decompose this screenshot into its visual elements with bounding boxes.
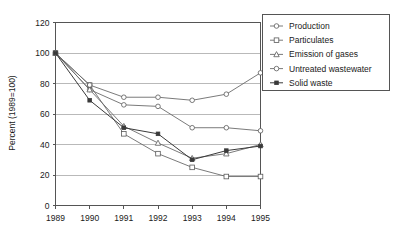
series-particulates [53,51,263,179]
legend-label: Solid waste [289,78,333,88]
data-point [155,140,160,145]
data-point [258,174,263,179]
data-point [156,104,161,109]
data-point [87,83,92,88]
line-chart: Percent (1989=100) 020406080100120 19891… [0,0,395,236]
chart-container: Percent (1989=100) 020406080100120 19891… [0,0,395,236]
legend-marker-icon [274,24,279,29]
legend-marker-icon [275,81,279,85]
data-point [190,125,195,130]
data-point [156,151,161,156]
y-tick-label: 40 [40,140,50,150]
data-point [156,95,161,100]
data-point [122,103,127,108]
x-tick-label: 1993 [183,213,202,223]
series-production [53,51,263,133]
series-line [56,53,261,100]
data-point [224,174,229,179]
x-tick-label: 1992 [149,213,168,223]
y-axis-label: Percent (1989=100) [7,75,17,151]
data-point [190,98,195,103]
y-tick-label: 80 [40,79,50,89]
data-point [225,149,229,153]
data-point [190,165,195,170]
x-tick-label: 1990 [80,213,99,223]
y-tick-label: 120 [35,18,49,28]
x-tick-label: 1989 [46,213,65,223]
x-tick-label: 1994 [217,213,236,223]
data-point [156,132,160,136]
series-line [56,53,261,177]
y-tick-label: 0 [45,201,50,211]
data-point [122,126,126,130]
data-point [259,144,263,148]
x-axis-ticks: 1989199019911992199319941995 [46,206,270,223]
data-point [88,98,92,102]
gridlines [56,53,261,175]
data-point [190,158,194,162]
data-point [224,125,229,130]
x-tick-label: 1991 [114,213,133,223]
data-point [224,92,229,97]
series-layer [53,50,263,179]
x-tick-label: 1995 [251,213,270,223]
legend-label: Production [289,21,330,31]
y-tick-label: 20 [40,170,50,180]
legend-label: Particulates [289,35,333,45]
data-point [54,51,58,55]
series-untreated-wastewater [53,51,263,103]
legend-marker-icon [274,38,279,43]
y-tick-label: 60 [40,109,50,119]
y-axis-ticks: 020406080100120 [35,18,55,211]
legend-marker-icon [274,66,279,71]
legend-label: Untreated wastewater [289,64,372,74]
data-point [122,132,127,137]
y-tick-label: 100 [35,48,49,58]
legend-label: Emission of gases [289,49,358,59]
data-point [258,128,263,133]
data-point [122,95,127,100]
